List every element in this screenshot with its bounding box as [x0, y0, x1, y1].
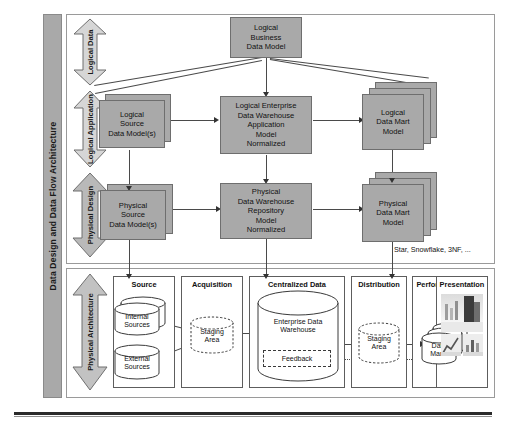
box-logical-source-data-model[interactable]: Logical Source Data Model(s) — [99, 100, 165, 148]
connector-psource-to-source-col — [129, 239, 130, 277]
box-physical-source-data-model[interactable]: Physical Source Data Model(s) — [100, 190, 166, 240]
arrowhead-prepo-to-centralized-col — [263, 274, 269, 279]
figure-side-title-bar: Data Design and Data Flow Architecture — [43, 14, 62, 398]
connector-ledw-to-lmart — [313, 120, 361, 121]
column-source-header: Source — [114, 280, 174, 289]
connector-pmart-to-performance-col — [392, 239, 393, 277]
presentation-thumbnail-small-right — [463, 334, 483, 356]
arrowhead-lmart-to-pmart — [389, 178, 395, 183]
diagram-canvas: Data Design and Data Flow Architecture L… — [0, 0, 506, 427]
column-presentation-header: Presentation — [437, 280, 487, 289]
phase-arrow-logical-application-label: Logical Application — [86, 94, 95, 164]
feedback-box[interactable]: Feedback — [263, 350, 331, 367]
cylinder-enterprise-data-warehouse[interactable]: Enterprise Data Warehouse — [257, 290, 339, 382]
box-physical-data-mart-model-label: Physical Data Mart Model — [374, 199, 411, 227]
cylinder-staging-area-acquisition[interactable]: Staging Area — [190, 316, 234, 354]
box-logical-source-data-model-label: Logical Source Data Model(s) — [106, 110, 158, 138]
cylinder-enterprise-data-warehouse-label: Enterprise Data Warehouse — [257, 318, 339, 335]
cylinder-internal-sources[interactable]: Internal Sources — [114, 302, 160, 336]
box-physical-data-mart-model[interactable]: Physical Data Mart Model — [362, 184, 424, 242]
phase-arrow-logical-data-label: Logical Data — [86, 29, 95, 74]
phase-arrow-physical-architecture: Physical Architecture — [72, 273, 108, 391]
arrowhead-lsource-to-ledw — [214, 117, 219, 123]
box-logical-business-data-model-label: Logical Business Data Model — [245, 23, 288, 51]
box-logical-data-mart-model[interactable]: Logical Data Mart Model — [362, 94, 424, 150]
feedback-box-label: Feedback — [282, 355, 313, 362]
box-logical-edw-application-model[interactable]: Logical Enterprise Data Warehouse Applic… — [220, 96, 312, 154]
box-logical-business-data-model[interactable]: Logical Business Data Model — [230, 17, 302, 58]
box-physical-dw-repository-model-label: Physical Data Warehouse Repository Model… — [236, 187, 297, 234]
connector-business-to-edw — [266, 58, 267, 94]
phase-arrow-logical-data: Logical Data — [73, 18, 107, 86]
footer-rule-secondary — [14, 416, 492, 417]
arrowhead-pmart-to-performance-col — [389, 274, 395, 279]
phase-arrow-physical-architecture-label: Physical Architecture — [86, 293, 95, 370]
column-acquisition-header: Acquisition — [182, 280, 242, 289]
presentation-thumbnail-small-left — [441, 334, 461, 356]
footer-rule — [14, 412, 492, 415]
box-physical-source-data-model-label: Physical Source Data Model(s) — [107, 201, 159, 229]
connector-lsource-to-psource — [129, 150, 130, 188]
cylinder-staging-area-acquisition-label: Staging Area — [190, 328, 234, 345]
connector-lsource-to-ledw — [166, 120, 216, 121]
cylinder-external-sources-label: External Sources — [114, 355, 160, 372]
arrowhead-psource-to-source-col — [126, 274, 132, 279]
column-centralized-data-header: Centralized Data — [250, 280, 344, 289]
connector-prepo-to-centralized-col — [266, 239, 267, 277]
box-logical-edw-application-model-label: Logical Enterprise Data Warehouse Applic… — [234, 101, 299, 148]
box-physical-dw-repository-model[interactable]: Physical Data Warehouse Repository Model… — [220, 183, 312, 239]
cylinder-external-sources[interactable]: External Sources — [114, 344, 160, 380]
connector-psource-to-prepo — [168, 209, 218, 210]
cylinder-staging-area-distribution-label: Staging Area — [358, 335, 400, 352]
presentation-thumbnail-large — [441, 294, 483, 332]
column-distribution-header: Distribution — [352, 280, 406, 289]
cylinder-staging-area-distribution[interactable]: Staging Area — [358, 322, 400, 364]
phase-arrow-physical-design-label: Physical Design — [86, 186, 95, 244]
connector-ledw-to-prepo — [266, 155, 267, 181]
schema-note: Star, Snowflake, 3NF, ... — [394, 245, 471, 254]
connector-prepo-to-pmart — [313, 209, 361, 210]
cylinder-internal-sources-label: Internal Sources — [114, 313, 160, 330]
box-logical-data-mart-model-label: Logical Data Mart Model — [374, 108, 411, 136]
figure-side-title: Data Design and Data Flow Architecture — [48, 122, 58, 291]
